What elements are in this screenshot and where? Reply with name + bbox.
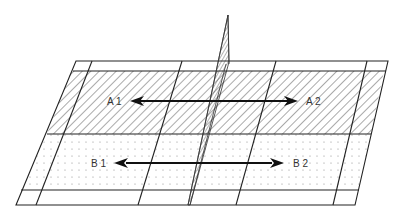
label-b2: B 2 [293, 158, 308, 169]
perspective-diagram: A 1 A 2 B 1 B 2 [0, 0, 400, 220]
label-a1: A 1 [107, 96, 122, 107]
label-b1: B 1 [91, 158, 106, 169]
label-a2: A 2 [306, 96, 321, 107]
